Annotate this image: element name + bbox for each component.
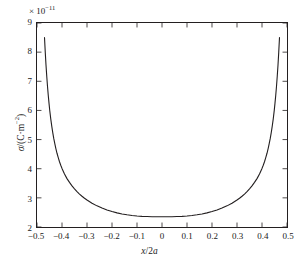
y-axis-title: σ/(C·m−2) — [11, 73, 26, 193]
xlabel-slash: /2 — [146, 246, 153, 256]
ylabel-rest: /(C·m — [16, 124, 26, 147]
plot-svg — [37, 23, 287, 227]
plot-area — [36, 22, 288, 228]
y-tick-label: 8 — [12, 46, 32, 56]
ylabel-close: ) — [16, 114, 26, 117]
exponent-prefix: × 10 — [29, 6, 45, 16]
x-axis-title: x/2a — [0, 246, 299, 257]
ylabel-sigma: σ — [16, 147, 26, 152]
figure-container: × 10−11 23456789 −0.5−0.4−0.3−0.2−0.100.… — [0, 0, 299, 265]
data-series-line — [45, 38, 280, 217]
y-tick-label: 9 — [12, 17, 32, 27]
exponent-value: −11 — [45, 4, 55, 11]
x-tick-label: 0.5 — [271, 231, 299, 241]
tick-marks — [37, 23, 287, 227]
y-tick-label: 3 — [12, 194, 32, 204]
y-axis-exponent-multiplier: × 10−11 — [29, 2, 55, 17]
ylabel-superscript: −2 — [13, 117, 20, 124]
xlabel-a: a — [153, 246, 158, 256]
